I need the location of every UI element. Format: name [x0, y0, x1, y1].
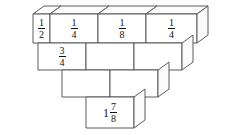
block-row2-col3-front-face	[134, 43, 182, 70]
block-row3-col1	[62, 70, 110, 97]
block-pyramid-diagram	[0, 0, 227, 135]
block-row1-col4	[146, 6, 208, 43]
block-row2-col1	[38, 43, 86, 70]
block-row3-col2-front-face	[110, 70, 158, 97]
figure-canvas: 1 2 1 4 1 8 1 4 3 4 1 7 8	[0, 0, 227, 135]
block-row2-col1-front-face	[38, 43, 86, 70]
block-row1-col2-front-face	[50, 14, 98, 43]
block-row4-col1-front-face	[86, 97, 134, 128]
row-1-blocks	[33, 6, 208, 43]
block-row2-col2	[86, 43, 134, 70]
block-row2-col2-front-face	[86, 43, 134, 70]
block-row1-col1-front-face	[33, 14, 50, 43]
block-row3-col1-front-face	[62, 70, 110, 97]
block-row1-col3-front-face	[98, 14, 146, 43]
